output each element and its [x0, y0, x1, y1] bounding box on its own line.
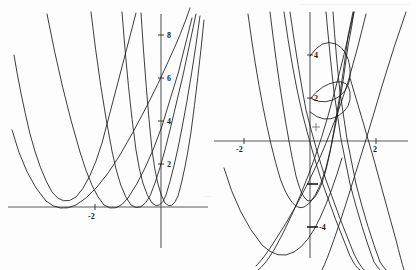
right-ylabel-4: 4: [314, 51, 318, 60]
right-curve-up-2: [248, 12, 354, 208]
left-xlabel-minus2: -2: [88, 212, 95, 221]
left-curve-5: [141, 13, 204, 206]
right-curve-right-2: [350, 78, 404, 270]
left-ylabel-8: 8: [167, 31, 171, 40]
right-curve-up-3: [270, 12, 353, 201]
right-plot-svg: 4 2 -4 -2 2: [208, 0, 416, 270]
right-ylabel-2: 2: [314, 94, 318, 103]
right-curve-cross-2: [256, 14, 366, 266]
right-plot-panel: 4 2 -4 -2 2: [208, 0, 416, 270]
right-xlabel-2: 2: [373, 145, 377, 154]
left-plot-panel: 8 6 4 2 -2: [0, 0, 208, 270]
right-ylabel-minus4: -4: [319, 223, 326, 232]
left-curve-1: [12, 8, 190, 208]
left-ylabel-2: 2: [167, 160, 171, 169]
figure-canvas: 8 6 4 2 -2: [0, 0, 416, 270]
right-xlabel-minus2: -2: [236, 145, 243, 154]
scan-artifact-corner: [205, 12, 209, 13]
left-ylabel-4: 4: [167, 117, 171, 126]
scan-artifact-left: [204, 196, 211, 197]
scan-artifact-top: [300, 4, 410, 5]
origin-plus-icon: [312, 123, 320, 131]
left-ylabel-6: 6: [167, 74, 171, 83]
left-curve-3: [91, 12, 196, 208]
left-plot-svg: 8 6 4 2 -2: [0, 0, 208, 270]
left-curve-outer: [14, 13, 136, 201]
